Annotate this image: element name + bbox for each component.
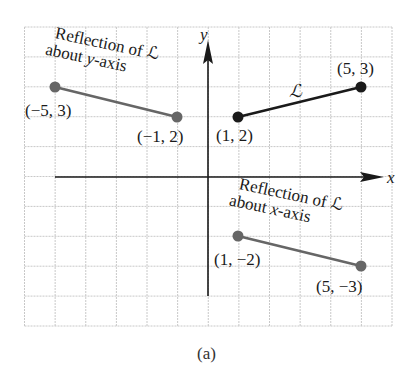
point-label-5-3: (5, 3)	[337, 59, 374, 78]
segment-reflection-y: Reflection of ℒ about y-axis (−5, 3) (−1…	[25, 22, 183, 146]
point-label-neg5-3: (−5, 3)	[25, 101, 71, 120]
figure-caption: (a)	[0, 344, 413, 364]
y-axis-label: y	[198, 25, 208, 44]
point-5-neg3	[356, 261, 367, 272]
coordinate-plane: x y ℒ (1, 2) (5, 3) Reflection of ℒ abou…	[0, 0, 413, 385]
point-label-5-neg3: (5, −3)	[316, 277, 362, 296]
point-5-3	[356, 82, 367, 93]
segment-original: ℒ (1, 2) (5, 3)	[216, 59, 374, 145]
segment-label-L: ℒ	[289, 81, 303, 101]
point-label-1-neg2: (1, −2)	[214, 250, 260, 269]
segment-reflection-x: Reflection of ℒ about x-axis (1, −2) (5,…	[214, 173, 367, 296]
point-label-neg1-2: (−1, 2)	[137, 127, 183, 146]
point-neg1-2	[172, 112, 183, 123]
point-neg5-3	[50, 82, 61, 93]
point-1-2	[233, 112, 244, 123]
x-axis-label: x	[386, 168, 395, 187]
point-1-neg2	[233, 231, 244, 242]
reflection-figure: x y ℒ (1, 2) (5, 3) Reflection of ℒ abou…	[0, 0, 413, 385]
point-label-1-2: (1, 2)	[216, 126, 253, 145]
